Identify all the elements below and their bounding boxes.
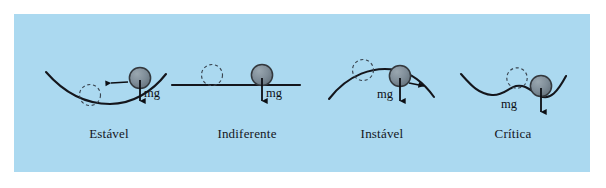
equilibrium-diagram (0, 0, 606, 188)
weight-label-estavel: mg (144, 86, 160, 101)
case-label-critica: Crítica (495, 126, 532, 142)
case-label-instavel: Instável (361, 126, 404, 142)
equilibrium-types-figure: mg mg mg mg Estável Indiferente Instável… (0, 0, 606, 188)
weight-label-instavel: mg (377, 87, 393, 102)
weight-label-critica: mg (501, 97, 517, 112)
case-label-estavel: Estável (89, 126, 129, 142)
restoring-force-arrow-estavel (111, 82, 128, 83)
case-label-indiferente: Indiferente (217, 126, 276, 142)
ghost-ball-indiferente (202, 65, 223, 86)
weight-label-indiferente: mg (266, 86, 282, 101)
